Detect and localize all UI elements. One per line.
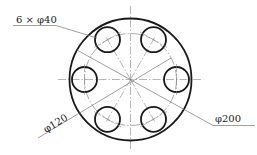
bolt-circle-dimension: φ120 (38, 58, 171, 138)
hole-top-right (140, 27, 167, 52)
hole-dimension-label: 6 × φ40 (16, 14, 57, 25)
hole-bottom-right (140, 107, 167, 132)
hole-top-left (94, 27, 121, 52)
flange-drawing: 6 × φ40 φ200 φ120 (0, 0, 257, 155)
hole-bottom-left (94, 107, 121, 132)
hole-dimension-leader: 6 × φ40 (13, 14, 97, 39)
bolt-circle-label: φ120 (41, 112, 69, 135)
outer-diameter-label: φ200 (215, 113, 241, 124)
center-lines (58, 6, 203, 150)
